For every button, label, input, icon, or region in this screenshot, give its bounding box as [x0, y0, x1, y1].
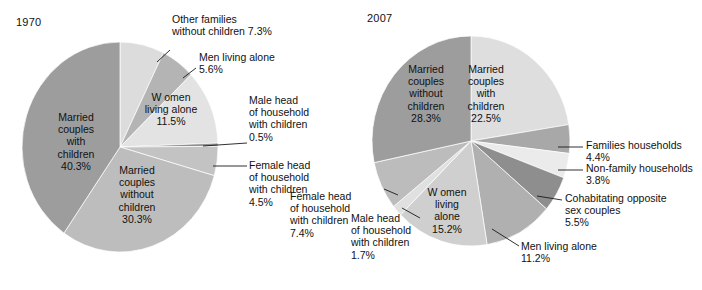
slice-label-men-living-alone-2007: Men living alone 11.2%: [521, 240, 631, 264]
slice-label-other-families-1970: Other families without children 7.3%: [172, 13, 302, 37]
slice-label-married-with-children-1970: Married couples with children 40.3%: [38, 111, 114, 172]
slice-label-male-head-2007: Male head of household with children 1.7…: [351, 212, 443, 261]
slice-label-married-with-children-2007: Married couples with children 22.5%: [448, 63, 524, 124]
slice-label-women-living-alone-1970: W omen living alone 11.5%: [129, 91, 213, 128]
slice-label-male-head-1970: Male head of household with children 0.5…: [249, 94, 339, 143]
slice-label-families-households-2007: Families households 4.4%: [586, 139, 700, 163]
slice-label-cohabitating-2007: Cohabitating opposite sex couples 5.5%: [565, 192, 701, 229]
year-label-2007: 2007: [367, 12, 392, 24]
slice-label-nonfamily-households-2007: Non-family households 3.8%: [586, 162, 702, 186]
figure-canvas: 1970 2007 Married couples with children …: [0, 0, 702, 290]
year-label-1970: 1970: [16, 16, 41, 28]
slice-label-men-living-alone-1970: Men living alone 5.6%: [199, 51, 319, 75]
slice-label-married-without-children-1970: Married couples without children 30.3%: [99, 164, 175, 225]
